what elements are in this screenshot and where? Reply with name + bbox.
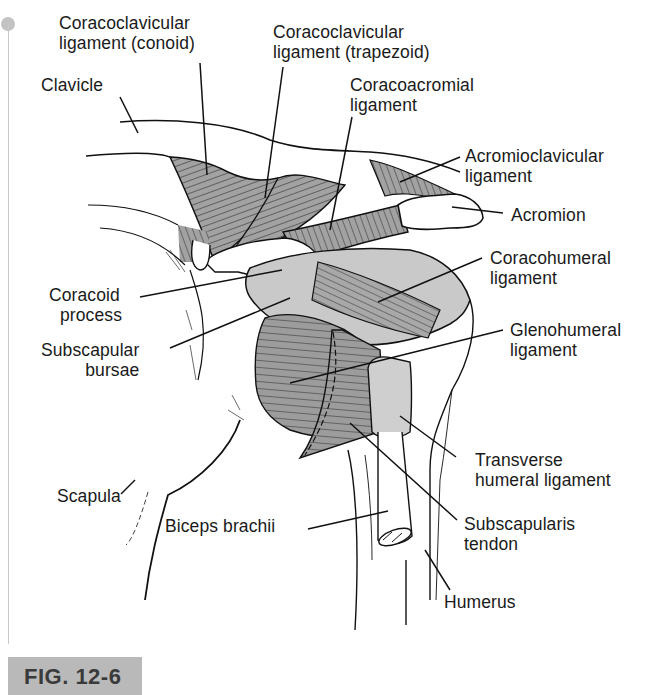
label-acromion: Acromion — [511, 205, 586, 225]
clavicle-bone — [86, 121, 460, 172]
label-coracoid-process: Coracoid process — [49, 285, 122, 325]
label-transverse-humeral: Transverse humeral ligament — [475, 450, 611, 490]
label-humerus: Humerus — [444, 592, 516, 612]
label-subscapularis-tendon: Subscapularis tendon — [464, 514, 575, 554]
figure-number-tag: FIG. 12-6 — [8, 657, 142, 695]
transverse-humeral-ligament — [368, 357, 412, 438]
label-acromioclavicular: Acromioclavicular ligament — [465, 146, 604, 186]
acromion-bone — [398, 194, 483, 229]
shoulder-ligament-figure: Coracoclavicular ligament (conoid) Corac… — [0, 0, 652, 695]
label-coracoacromial: Coracoacromial ligament — [350, 75, 474, 115]
biceps-tendon — [378, 432, 412, 543]
label-coracohumeral: Coracohumeral ligament — [490, 248, 611, 288]
label-glenohumeral: Glenohumeral ligament — [510, 320, 621, 360]
label-subscapular-bursae: Subscapular bursae — [41, 340, 139, 380]
label-biceps-brachii: Biceps brachii — [165, 516, 275, 536]
figure-number: FIG. 12-6 — [24, 664, 121, 690]
label-scapula: Scapula — [57, 486, 121, 506]
label-trapezoid: Coracoclavicular ligament (trapezoid) — [273, 22, 430, 62]
label-conoid: Coracoclavicular ligament (conoid) — [59, 13, 195, 53]
label-clavicle: Clavicle — [41, 75, 103, 95]
